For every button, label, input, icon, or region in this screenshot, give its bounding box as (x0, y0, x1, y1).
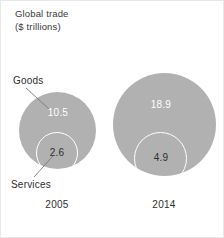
annotation-services: Services (11, 179, 51, 190)
page-title: Global trade (15, 8, 69, 21)
value-label-services-2014: 4.9 (140, 152, 182, 163)
chart-title-block: Global trade ($ trillions) (15, 8, 69, 34)
value-label-services-2005: 2.6 (37, 147, 77, 158)
value-label-goods-2014: 18.9 (140, 99, 182, 110)
chart-subtitle-units: ($ trillions) (15, 21, 69, 34)
global-trade-bubble-chart: Global trade ($ trillions) 10.5 2.6 18.9… (0, 0, 224, 238)
annotation-goods: Goods (13, 75, 43, 86)
axis-label-2005: 2005 (33, 199, 81, 210)
value-label-goods-2005: 10.5 (36, 107, 80, 118)
axis-label-2014: 2014 (140, 199, 188, 210)
